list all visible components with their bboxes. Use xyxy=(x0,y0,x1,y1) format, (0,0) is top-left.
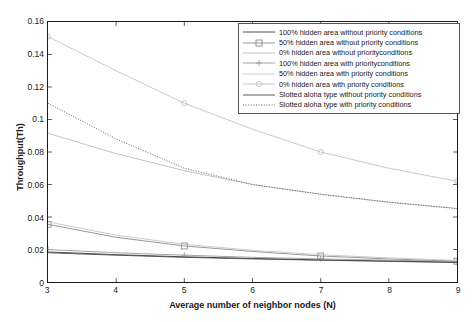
x-tick-label: 8 xyxy=(375,286,405,295)
legend-marker-icon xyxy=(241,27,277,37)
legend-item: 100% hidden area without priority condit… xyxy=(241,27,457,37)
x-tick-label: 4 xyxy=(101,286,131,295)
chart-figure: 00.020.040.060.080.10.120.140.16 3456789… xyxy=(0,0,476,322)
series-2 xyxy=(48,133,457,208)
legend-marker-icon xyxy=(241,48,277,58)
x-axis-ticks: 3456789 xyxy=(47,286,458,300)
x-tick-label: 5 xyxy=(169,286,199,295)
legend-label: Slotted aloha type with priority conditi… xyxy=(277,101,411,108)
legend-label: 0% hidden area with priority conditions xyxy=(277,81,404,88)
legend-item: Slotted aloha type without priority cond… xyxy=(241,89,457,99)
legend-item: 0% hidden area with priority conditions xyxy=(241,79,457,89)
legend-marker-icon xyxy=(241,90,277,100)
legend-marker-icon xyxy=(241,100,277,110)
legend-marker-icon xyxy=(241,38,277,48)
y-axis-label: Throughput(Th) xyxy=(15,82,25,232)
legend-marker-icon xyxy=(241,58,277,68)
legend-item: 50% hidden area without priority conditi… xyxy=(241,37,457,47)
y-tick-label: 0.14 xyxy=(4,50,44,59)
x-tick-label: 7 xyxy=(306,286,336,295)
x-tick-label: 6 xyxy=(238,286,268,295)
chart-legend: 100% hidden area without priority condit… xyxy=(238,23,460,114)
y-tick-label: 0.16 xyxy=(4,17,44,26)
legend-marker-icon xyxy=(241,69,277,79)
legend-item: Slotted aloha type with priority conditi… xyxy=(241,100,457,110)
legend-label: 50% hidden area without priority conditi… xyxy=(277,39,418,46)
legend-label: 0% hidden area without prioritycondition… xyxy=(277,49,412,56)
legend-marker-icon xyxy=(241,79,277,89)
legend-label: 100% hidden area without priority condit… xyxy=(277,29,422,36)
legend-item: 0% hidden area without prioritycondition… xyxy=(241,48,457,58)
legend-label: 100% hidden area with priorityconditions xyxy=(277,60,410,67)
x-tick-label: 9 xyxy=(443,286,473,295)
legend-label: Slotted aloha type without priority cond… xyxy=(277,91,421,98)
legend-item: 50% hidden area with priority conditions xyxy=(241,69,457,79)
x-axis-label: Average number of neighbor nodes (N) xyxy=(47,300,458,310)
x-tick-label: 3 xyxy=(32,286,62,295)
legend-item: 100% hidden area with priorityconditions xyxy=(241,58,457,68)
y-tick-label: 0.02 xyxy=(4,246,44,255)
series-7 xyxy=(48,103,457,208)
legend-label: 50% hidden area with priority conditions xyxy=(277,70,408,77)
